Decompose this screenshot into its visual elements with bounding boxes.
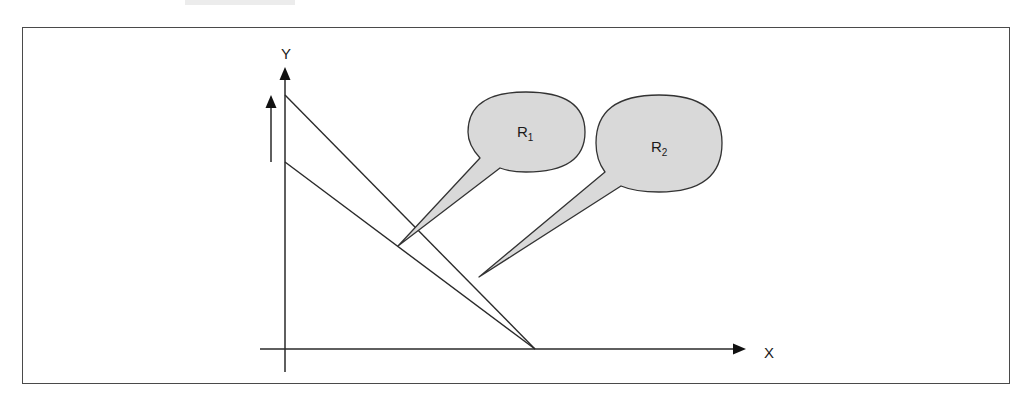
y-axis-label: Y — [281, 45, 291, 62]
y-axis-arrowhead-icon — [280, 67, 291, 80]
lower-line — [285, 162, 535, 349]
x-axis-arrowhead-icon — [733, 344, 746, 355]
x-axis-label: X — [764, 344, 774, 361]
upward-shift-arrow-icon — [266, 95, 277, 162]
y-axis — [280, 67, 291, 372]
x-axis — [260, 344, 746, 355]
diagram-canvas: Y X R1 R2 — [0, 0, 1030, 409]
